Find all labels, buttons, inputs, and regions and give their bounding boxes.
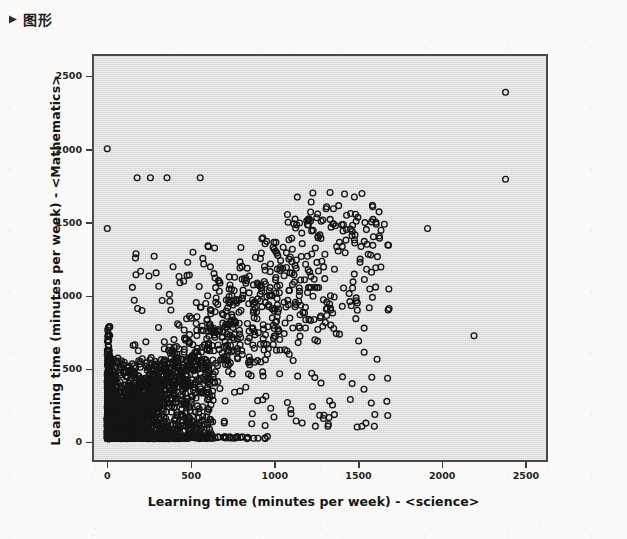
y-tick-mark [86, 369, 92, 371]
x-tick-label: 500 [161, 470, 221, 481]
y-tick-mark [86, 149, 92, 151]
scatter-plot-figure: 0500100015002000250005001000150020002500… [0, 0, 627, 539]
x-tick-label: 2000 [412, 470, 472, 481]
x-tick-label: 2500 [496, 470, 556, 481]
x-tick-mark [442, 462, 444, 468]
scatter-points-layer [94, 56, 546, 460]
x-tick-mark [107, 462, 109, 468]
y-tick-mark [86, 222, 92, 224]
x-tick-label: 1000 [245, 470, 305, 481]
x-axis-title: Learning time (minutes per week) - <scie… [0, 494, 627, 509]
plot-area [92, 54, 548, 462]
x-tick-mark [525, 462, 527, 468]
y-tick-mark [86, 76, 92, 78]
x-tick-label: 1500 [329, 470, 389, 481]
y-tick-mark [86, 442, 92, 444]
y-axis-title: Learning time (minutes per week) - <Math… [48, 51, 63, 471]
x-tick-mark [191, 462, 193, 468]
y-tick-mark [86, 296, 92, 298]
x-tick-label: 0 [77, 470, 137, 481]
x-tick-mark [358, 462, 360, 468]
x-tick-mark [274, 462, 276, 468]
